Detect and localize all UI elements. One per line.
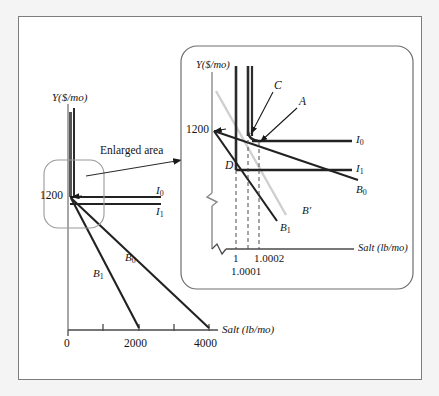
inset-curve-label-b0-sub: 0 [363,188,367,197]
inset-curve-label-b0-text: B [356,183,363,195]
main-curve-label-b1: B1 [93,268,104,281]
main-curve-label-b1-text: B [93,267,100,279]
inset-curve-label-i1: I1 [356,163,364,176]
main-curve-label-b0-text: B [125,251,132,263]
main-xtick-label-0: 0 [64,338,70,350]
main-xtick-label-4000: 4000 [194,338,217,350]
main-xtick-label-2000: 2000 [124,338,147,350]
main-x-axis-label: Salt (lb/mo) [222,324,274,335]
inset-xtick-label-10002: 1.0002 [254,253,284,264]
main-curve-label-b0: B0 [125,252,136,265]
inset-y-axis-label: Y($/mo) [196,60,230,71]
inset-point-label-c: C [274,80,282,92]
figure-container: Y($/mo) 1200 Salt (lb/mo) 0 2000 4000 I0… [0,0,439,396]
inset-y-value-label: 1200 [186,124,209,136]
main-curve-label-i0-sub: 0 [160,189,164,198]
figure-border [18,16,422,380]
inset-curve-label-b1-text: B [280,221,287,233]
inset-point-label-d: D [225,160,233,172]
enlarged-area-label: Enlarged area [100,145,163,157]
inset-xtick-label-10001: 1.0001 [231,266,261,277]
main-curve-label-b0-sub: 0 [132,256,136,265]
inset-curve-label-bprime: B′ [302,205,311,216]
main-curve-label-i1: I1 [156,206,164,219]
main-y-axis-label: Y($/mo) [52,92,87,103]
inset-xtick-label-1: 1 [233,253,239,264]
inset-curve-label-b1-sub: 1 [287,226,291,235]
inset-point-label-a: A [299,96,306,108]
inset-x-axis-label: Salt (lb/mo) [358,243,408,254]
main-curve-label-i1-sub: 1 [160,210,164,219]
inset-curve-label-i1-sub: 1 [360,167,364,176]
main-curve-label-i0: I0 [156,185,164,198]
inset-curve-label-i0-sub: 0 [360,138,364,147]
main-curve-label-b1-sub: 1 [100,272,104,281]
inset-curve-label-b1: B1 [280,222,291,235]
main-y-value-label: 1200 [40,190,63,202]
inset-curve-label-b0: B0 [356,184,367,197]
inset-curve-label-i0: I0 [356,134,364,147]
